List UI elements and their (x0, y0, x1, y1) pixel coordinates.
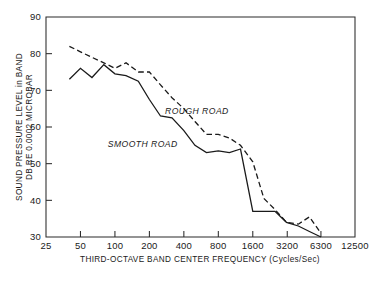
y-axis-title-line1: SOUND PRESSURE LEVEL in BAND (15, 53, 24, 201)
x-tick-label: 1600 (242, 240, 264, 251)
x-tick-label: 400 (176, 240, 192, 251)
x-tick-label: 12500 (341, 240, 368, 251)
plot-frame (46, 17, 355, 237)
plot-frame-path (46, 17, 355, 237)
x-tick-label: 50 (75, 240, 86, 251)
y-tick-label: 30 (30, 231, 41, 242)
x-axis-title: THIRD-OCTAVE BAND CENTER FREQUENCY (Cycl… (80, 255, 320, 264)
x-tick-label: 200 (141, 240, 157, 251)
x-tick-label: 3200 (276, 240, 298, 251)
annotation-rough-road: ROUGH ROAD (165, 106, 229, 116)
annotation-smooth-road: SMOOTH ROAD (108, 139, 178, 149)
chart-figure: 255010020040080016003200630012500 304050… (0, 0, 379, 282)
y-axis-title-line2: DB RE 0.0002 MICROBAR (25, 74, 34, 180)
series-line-smooth-road (69, 65, 321, 237)
y-tick-label: 80 (30, 48, 41, 59)
series-annotations: ROUGH ROADSMOOTH ROAD (108, 106, 229, 149)
y-tick-label: 90 (30, 11, 41, 22)
y-tick-label: 40 (30, 195, 41, 206)
x-tick-label: 6300 (310, 240, 332, 251)
chart-plot-area: 255010020040080016003200630012500 304050… (0, 0, 379, 282)
x-axis-tick-labels: 255010020040080016003200630012500 (41, 240, 369, 251)
x-tick-label: 25 (41, 240, 52, 251)
x-tick-label: 800 (210, 240, 226, 251)
x-axis-ticks (80, 231, 320, 237)
x-tick-label: 100 (107, 240, 123, 251)
y-axis-ticks (46, 54, 52, 201)
